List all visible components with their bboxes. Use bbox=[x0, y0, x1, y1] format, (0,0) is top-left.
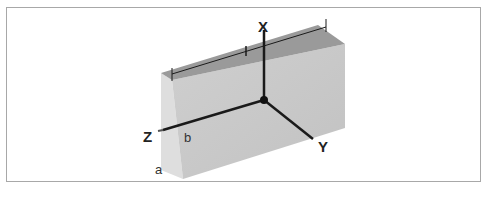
z-axis-label: Z bbox=[143, 128, 152, 145]
width-label: b bbox=[184, 130, 191, 145]
height-label: a bbox=[155, 162, 163, 177]
x-axis-label: X bbox=[258, 18, 268, 35]
origin-point bbox=[260, 96, 268, 104]
y-axis-label: Y bbox=[318, 138, 328, 155]
beam-diagram: X Z Y b a bbox=[0, 0, 490, 198]
z-axis-tip bbox=[158, 130, 163, 131]
